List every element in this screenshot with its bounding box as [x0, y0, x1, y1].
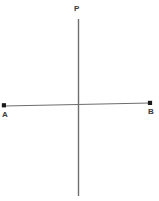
- diagram-svg: [0, 0, 159, 201]
- label-b: B: [148, 107, 154, 116]
- point-marker-a: [2, 103, 6, 107]
- label-p: P: [74, 4, 79, 13]
- label-a: A: [2, 110, 8, 119]
- segment-ab: [4, 103, 150, 106]
- point-marker-b: [148, 101, 152, 105]
- geometry-diagram-canvas: P A B: [0, 0, 159, 201]
